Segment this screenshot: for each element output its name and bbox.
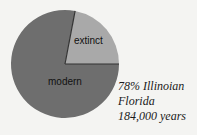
chart-caption: 78% Illinoian Florida 184,000 years [118, 79, 186, 124]
caption-line-3: 184,000 years [118, 109, 186, 124]
label-modern: modern [48, 76, 82, 87]
caption-line-1: 78% Illinoian [118, 79, 186, 94]
caption-line-2: Florida [118, 94, 186, 109]
label-extinct: extinct [74, 35, 103, 46]
